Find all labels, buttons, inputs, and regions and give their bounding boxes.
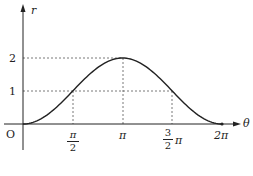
fraction-denominator: 2 — [67, 143, 79, 153]
fraction-denominator: 2 — [163, 141, 173, 151]
x-tick-3-over-2: 3 2 — [163, 128, 173, 151]
x-tick-pi: π — [119, 130, 126, 141]
theta-axis-arrow-icon — [233, 122, 241, 127]
graph-figure: r θ O 2 1 π 2 π 3 2 π 2π — [0, 0, 253, 176]
fraction-numerator: 3 — [163, 128, 173, 138]
origin-label: O — [6, 129, 15, 140]
x-tick-pi-over-2: π 2 — [67, 130, 79, 153]
x-tick-2pi: 2π — [214, 130, 228, 141]
x-tick-3-over-2-pi: π — [175, 135, 182, 146]
r-axis-arrow-icon — [21, 4, 26, 12]
fraction-numerator: π — [67, 130, 79, 140]
graph-canvas — [0, 0, 253, 176]
y-tick-1: 1 — [9, 86, 16, 97]
y-tick-2: 2 — [9, 53, 16, 64]
endpoint-dot — [220, 122, 223, 125]
r-axis-label: r — [31, 5, 36, 16]
theta-axis-label: θ — [243, 118, 250, 129]
